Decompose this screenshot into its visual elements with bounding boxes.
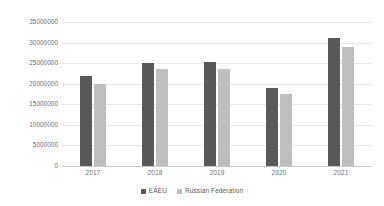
y-axis-tick-labels: 0500000010000000150000002000000025000000… bbox=[0, 0, 58, 206]
y-axis-tick-label: 30000000 bbox=[2, 39, 58, 45]
x-axis-tick-labels: 20172018201920202021 bbox=[62, 170, 372, 184]
bar-group bbox=[248, 22, 310, 166]
bar-2020-series-1 bbox=[280, 94, 292, 166]
y-axis-tick-label: 35000000 bbox=[2, 19, 58, 25]
legend-label: EAEU bbox=[149, 188, 167, 195]
bar-2021-series-0 bbox=[328, 38, 340, 166]
bar-2019-series-1 bbox=[218, 69, 230, 167]
legend-swatch-icon bbox=[141, 189, 146, 194]
legend-label: Russian Federation bbox=[185, 188, 243, 195]
plot-area bbox=[62, 22, 372, 166]
legend-swatch-icon bbox=[177, 189, 182, 194]
bar-2019-series-0 bbox=[204, 62, 216, 166]
bar-2018-series-1 bbox=[156, 69, 168, 166]
x-axis-tick-label: 2017 bbox=[62, 170, 124, 177]
x-axis-tick-label: 2019 bbox=[186, 170, 248, 177]
legend-item[interactable]: EAEU bbox=[141, 188, 167, 195]
bar-chart: 0500000010000000150000002000000025000000… bbox=[0, 0, 384, 206]
legend-item[interactable]: Russian Federation bbox=[177, 188, 243, 195]
chart-legend: EAEURussian Federation bbox=[0, 188, 384, 195]
x-axis-line bbox=[62, 166, 372, 167]
bar-2021-series-1 bbox=[342, 47, 354, 166]
bar-2020-series-0 bbox=[266, 88, 278, 166]
y-axis-tick-label: 0 bbox=[2, 163, 58, 169]
y-axis-tick-label: 5000000 bbox=[2, 142, 58, 148]
x-axis-tick-label: 2018 bbox=[124, 170, 186, 177]
bar-2018-series-0 bbox=[142, 63, 154, 166]
bar-group bbox=[310, 22, 372, 166]
bar-group bbox=[62, 22, 124, 166]
y-axis-tick-label: 15000000 bbox=[2, 101, 58, 107]
y-axis-tick-label: 25000000 bbox=[2, 60, 58, 66]
bar-group bbox=[124, 22, 186, 166]
x-axis-tick-label: 2020 bbox=[248, 170, 310, 177]
bar-2017-series-0 bbox=[80, 76, 92, 167]
bar-2017-series-1 bbox=[94, 84, 106, 166]
y-axis-tick-label: 10000000 bbox=[2, 122, 58, 128]
x-axis-tick-label: 2021 bbox=[310, 170, 372, 177]
y-axis-tick-label: 20000000 bbox=[2, 81, 58, 87]
bar-group bbox=[186, 22, 248, 166]
